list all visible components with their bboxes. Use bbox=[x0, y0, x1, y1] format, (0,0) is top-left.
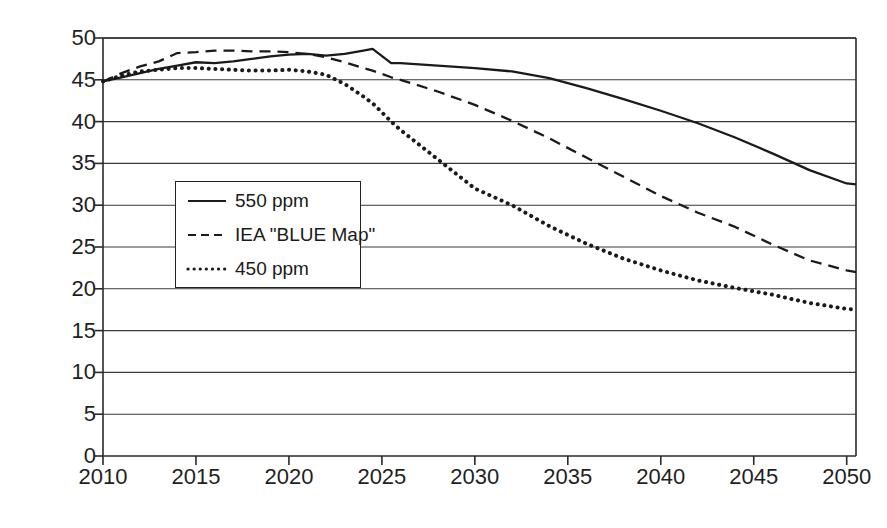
x-axis-tick-2035: 2035 bbox=[523, 464, 613, 490]
x-axis-tick-2010: 2010 bbox=[58, 464, 148, 490]
legend-line-dotted-icon bbox=[186, 262, 228, 276]
y-axis-tick-50: 50 bbox=[36, 25, 96, 51]
x-axis-tick-2030: 2030 bbox=[430, 464, 520, 490]
legend-item-450ppm: 450 ppm bbox=[186, 254, 309, 284]
x-axis-tick-2045: 2045 bbox=[709, 464, 799, 490]
y-axis-tick-labels: 05101520253035404550 bbox=[30, 0, 96, 528]
legend-label-450ppm: 450 ppm bbox=[235, 258, 309, 280]
y-axis-tick-25: 25 bbox=[36, 234, 96, 260]
x-axis-tick-2025: 2025 bbox=[337, 464, 427, 490]
y-axis-tick-10: 10 bbox=[36, 359, 96, 385]
x-axis-tick-2020: 2020 bbox=[244, 464, 334, 490]
legend: 550 ppm IEA "BLUE Map" 450 ppm bbox=[175, 181, 361, 288]
y-axis-tick-45: 45 bbox=[36, 67, 96, 93]
legend-label-blue-map: IEA "BLUE Map" bbox=[235, 224, 375, 246]
x-axis-tick-2050: 2050 bbox=[802, 464, 887, 490]
y-axis-tick-15: 15 bbox=[36, 318, 96, 344]
y-axis-tick-30: 30 bbox=[36, 192, 96, 218]
y-axis-tick-5: 5 bbox=[36, 401, 96, 427]
y-axis-tick-40: 40 bbox=[36, 109, 96, 135]
legend-line-solid-icon bbox=[186, 194, 228, 208]
x-axis-tick-2015: 2015 bbox=[151, 464, 241, 490]
legend-line-dashed-icon bbox=[186, 228, 228, 242]
y-axis-tick-20: 20 bbox=[36, 276, 96, 302]
legend-label-550ppm: 550 ppm bbox=[235, 190, 309, 212]
emissions-scenarios-chart: GtCO2-e 05101520253035404550 20102015202… bbox=[0, 0, 887, 528]
x-axis-tick-2040: 2040 bbox=[616, 464, 706, 490]
y-axis-tick-35: 35 bbox=[36, 150, 96, 176]
plot-area bbox=[0, 0, 887, 528]
legend-item-blue-map: IEA "BLUE Map" bbox=[186, 220, 375, 250]
legend-item-550ppm: 550 ppm bbox=[186, 186, 309, 216]
